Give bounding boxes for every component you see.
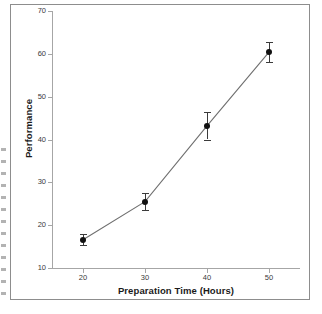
data-point-marker bbox=[142, 199, 148, 205]
data-point-marker bbox=[80, 237, 86, 243]
figure-frame: 10203040506070 20304050 Performance Prep… bbox=[10, 4, 310, 300]
y-axis-title: Performance bbox=[23, 74, 34, 184]
error-bar-cap-upper bbox=[204, 112, 211, 113]
error-bar-cap-upper bbox=[80, 234, 87, 235]
error-bar-cap-lower bbox=[80, 245, 87, 246]
scan-edge-artifact bbox=[0, 0, 10, 314]
error-bar-cap-upper bbox=[266, 42, 273, 43]
plot-area: 10203040506070 20304050 Performance Prep… bbox=[11, 5, 311, 301]
error-bar-cap-lower bbox=[266, 62, 273, 63]
error-bar-cap-lower bbox=[142, 210, 149, 211]
x-axis-title: Preparation Time (Hours) bbox=[52, 285, 300, 296]
data-point-marker bbox=[204, 123, 210, 129]
error-bar-cap-lower bbox=[204, 140, 211, 141]
error-bar-cap-upper bbox=[142, 193, 149, 194]
